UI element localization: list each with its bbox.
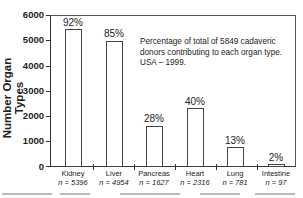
- cropped-caption-fragment: [120, 193, 180, 195]
- bar-lung: [227, 147, 244, 167]
- cropped-caption-fragment: [255, 193, 295, 195]
- x-category-pancreas: Pancreas n = 1627: [133, 169, 175, 187]
- pct-label-kidney: 92%: [53, 17, 93, 28]
- y-tick-6000: 6000: [4, 9, 44, 20]
- category-label: Pancreas: [133, 169, 175, 178]
- category-label: Kidney: [52, 169, 94, 178]
- x-category-lung: Lung n = 781: [214, 169, 256, 187]
- pct-label-heart: 40%: [175, 96, 215, 107]
- n-label: n = 2316: [174, 178, 216, 187]
- pct-label-lung: 13%: [215, 135, 255, 146]
- cropped-caption-fragment: [2, 193, 52, 195]
- bar-kidney: [65, 29, 82, 167]
- n-label: n = 5396: [52, 178, 94, 187]
- n-label: n = 4954: [93, 178, 135, 187]
- category-label: Lung: [214, 169, 256, 178]
- cropped-caption-fragment: [60, 193, 90, 195]
- x-category-liver: Liver n = 4954: [93, 169, 135, 187]
- pct-label-intestine: 2%: [256, 152, 296, 163]
- bar-pancreas: [146, 126, 163, 167]
- x-category-kidney: Kidney n = 5396: [52, 169, 94, 187]
- category-label: Heart: [174, 169, 216, 178]
- n-label: n = 1627: [133, 178, 175, 187]
- x-category-intestine: Intestine n = 97: [255, 169, 297, 187]
- category-label: Intestine: [255, 169, 297, 178]
- y-tick-0: 0: [4, 161, 44, 172]
- y-tick-1000: 1000: [4, 135, 44, 146]
- cropped-caption-fragment: [200, 193, 240, 195]
- chart-annotation: Percentage of total of 5849 cadaveric do…: [140, 37, 300, 69]
- n-label: n = 781: [214, 178, 256, 187]
- y-tick-4000: 4000: [4, 60, 44, 71]
- pct-label-liver: 85%: [94, 28, 134, 39]
- bar-liver: [106, 41, 123, 167]
- x-category-heart: Heart n = 2316: [174, 169, 216, 187]
- n-label: n = 97: [255, 178, 297, 187]
- category-label: Liver: [93, 169, 135, 178]
- bar-intestine: [268, 164, 285, 167]
- pct-label-pancreas: 28%: [134, 113, 174, 124]
- y-tick-5000: 5000: [4, 34, 44, 45]
- y-tick-3000: 3000: [4, 85, 44, 96]
- y-tick-2000: 2000: [4, 110, 44, 121]
- bar-heart: [187, 108, 204, 167]
